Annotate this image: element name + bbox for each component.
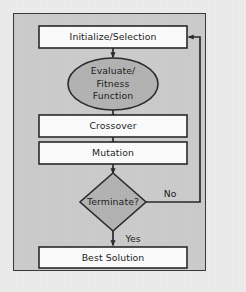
initialize-selection-label: Initialize/Selection: [70, 31, 157, 42]
best-solution-label: Best Solution: [82, 252, 145, 263]
edge-label-yes: Yes: [124, 233, 140, 244]
crossover-label: Crossover: [89, 120, 136, 131]
node-evaluate-fitness-function[interactable]: Evaluate/ Fitness Function: [68, 58, 158, 110]
evaluate-line-2: Fitness: [97, 78, 130, 89]
node-crossover[interactable]: Crossover: [39, 115, 187, 137]
evaluate-line-1: Evaluate/: [91, 65, 136, 76]
mutation-label: Mutation: [92, 147, 134, 158]
node-terminate-decision[interactable]: Terminate?: [80, 173, 146, 231]
flowchart-canvas: Initialize/Selection Evaluate/ Fitness F…: [0, 0, 246, 292]
node-mutation[interactable]: Mutation: [39, 142, 187, 164]
flowchart-figure: Initialize/Selection Evaluate/ Fitness F…: [0, 0, 246, 292]
node-initialize-selection[interactable]: Initialize/Selection: [39, 26, 187, 48]
node-best-solution[interactable]: Best Solution: [39, 247, 187, 268]
terminate-label: Terminate?: [86, 196, 139, 207]
evaluate-line-3: Function: [93, 90, 133, 101]
edge-label-no: No: [164, 188, 177, 199]
